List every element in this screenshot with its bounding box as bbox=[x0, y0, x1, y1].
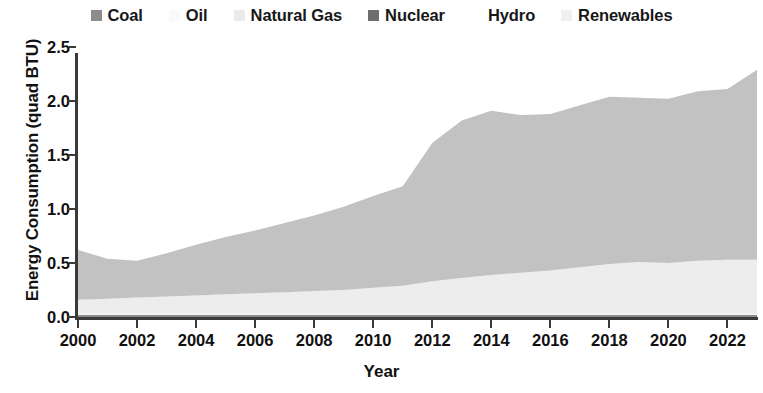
x-tick-mark bbox=[549, 320, 551, 328]
area-series-oil bbox=[78, 314, 757, 315]
legend-item-label: Renewables bbox=[578, 7, 672, 24]
stacked-area-chart: CoalOilNatural GasNuclearHydroRenewables… bbox=[0, 0, 763, 393]
legend-item-renewables[interactable]: Renewables bbox=[561, 7, 672, 24]
legend-swatch-icon bbox=[91, 10, 102, 21]
x-tick-mark bbox=[136, 320, 138, 328]
legend-item-label: Nuclear bbox=[385, 7, 445, 24]
legend-item-hydro[interactable]: Hydro bbox=[471, 7, 535, 24]
x-tick-mark bbox=[254, 320, 256, 328]
y-tick-label: 2.0 bbox=[26, 92, 70, 111]
x-tick-mark bbox=[667, 320, 669, 328]
y-axis-spine bbox=[75, 53, 78, 318]
legend-item-oil[interactable]: Oil bbox=[169, 7, 208, 24]
y-tick-label: 1.0 bbox=[26, 200, 70, 219]
y-tick-mark bbox=[68, 100, 76, 102]
x-axis-title: Year bbox=[0, 362, 763, 382]
x-tick-label: 2022 bbox=[692, 331, 762, 350]
y-tick-label: 1.5 bbox=[26, 146, 70, 165]
legend-item-coal[interactable]: Coal bbox=[91, 7, 143, 24]
legend-item-natural-gas[interactable]: Natural Gas bbox=[234, 7, 343, 24]
plot-area bbox=[78, 47, 757, 317]
y-tick-mark bbox=[68, 46, 76, 48]
legend-swatch-icon bbox=[471, 10, 482, 21]
legend-item-label: Oil bbox=[186, 7, 208, 24]
legend-item-label: Natural Gas bbox=[251, 7, 343, 24]
x-tick-mark bbox=[726, 320, 728, 328]
x-tick-mark bbox=[490, 320, 492, 328]
x-tick-mark bbox=[313, 320, 315, 328]
x-tick-mark bbox=[431, 320, 433, 328]
y-tick-label: 0.5 bbox=[26, 254, 70, 273]
y-tick-label: 0.0 bbox=[26, 308, 70, 327]
chart-legend: CoalOilNatural GasNuclearHydroRenewables bbox=[0, 2, 763, 28]
legend-item-label: Coal bbox=[108, 7, 143, 24]
y-tick-mark bbox=[68, 208, 76, 210]
x-tick-mark bbox=[372, 320, 374, 328]
x-tick-mark bbox=[195, 320, 197, 328]
legend-swatch-icon bbox=[169, 10, 180, 21]
plot-svg bbox=[78, 47, 757, 317]
legend-swatch-icon bbox=[234, 10, 245, 21]
x-tick-mark bbox=[608, 320, 610, 328]
y-tick-mark bbox=[68, 316, 76, 318]
x-tick-mark bbox=[77, 320, 79, 328]
legend-item-label: Hydro bbox=[488, 7, 535, 24]
y-tick-mark bbox=[68, 262, 76, 264]
legend-swatch-icon bbox=[368, 10, 379, 21]
y-tick-mark bbox=[68, 154, 76, 156]
x-axis-spine bbox=[75, 317, 758, 320]
legend-swatch-icon bbox=[561, 10, 572, 21]
legend-item-nuclear[interactable]: Nuclear bbox=[368, 7, 445, 24]
y-tick-label: 2.5 bbox=[26, 38, 70, 57]
